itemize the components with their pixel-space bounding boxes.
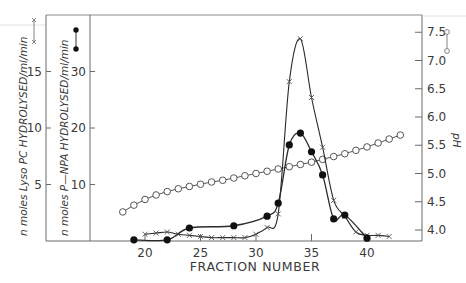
series-pnpa xyxy=(130,129,370,243)
svg-text:6.0: 6.0 xyxy=(427,110,446,124)
svg-text:40: 40 xyxy=(359,246,374,260)
svg-text:30: 30 xyxy=(248,246,263,260)
svg-text:10: 10 xyxy=(27,121,42,135)
series-lysopc xyxy=(143,36,392,240)
svg-text:4.0: 4.0 xyxy=(427,223,446,237)
svg-text:25: 25 xyxy=(193,246,208,260)
chart: 2025303540 51015n moles Lyso PC HYDROLYS… xyxy=(0,0,466,283)
svg-text:6.5: 6.5 xyxy=(427,82,446,96)
svg-text:5.0: 5.0 xyxy=(427,167,446,181)
svg-text:20: 20 xyxy=(71,121,86,135)
y-axis-pnpa: 102030n moles P—NPA HYDROLYSED/ml/min xyxy=(58,40,95,236)
svg-text:15: 15 xyxy=(27,65,42,79)
plot-frame xyxy=(46,15,422,241)
svg-text:10: 10 xyxy=(71,178,86,192)
svg-text:35: 35 xyxy=(304,246,319,260)
svg-text:4.5: 4.5 xyxy=(427,195,446,209)
svg-text:20: 20 xyxy=(137,246,152,260)
svg-text:7.5: 7.5 xyxy=(427,25,446,39)
svg-text:5: 5 xyxy=(34,178,42,192)
svg-text:7.0: 7.0 xyxy=(427,54,446,68)
svg-text:n moles Lyso PC HYDROLYSED/ml: n moles Lyso PC HYDROLYSED/ml/min xyxy=(17,37,29,236)
svg-text:30: 30 xyxy=(71,65,86,79)
svg-text:pH: pH xyxy=(451,132,463,148)
legend-markers xyxy=(32,18,449,53)
x-axis-title: FRACTION NUMBER xyxy=(190,259,320,274)
series-ph xyxy=(120,132,404,215)
svg-text:n moles P—NPA HYDROLYSED/ml/m: n moles P—NPA HYDROLYSED/ml/min xyxy=(58,40,70,236)
svg-text:5.5: 5.5 xyxy=(427,138,446,152)
